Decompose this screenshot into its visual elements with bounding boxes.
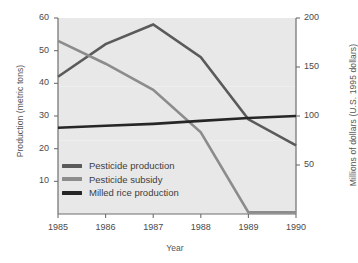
y-axis-right-tick-label: 50 [304,159,330,169]
chart-legend: Pesticide productionPesticide subsidyMil… [62,160,179,198]
y-axis-left-tick-label: 20 [25,143,49,153]
y-axis-right-tick-label: 100 [304,110,330,120]
legend-label: Pesticide subsidy [89,174,162,185]
y-axis-right-title: Millions of dollars (U.S. 1995 dollars) [348,20,358,210]
x-axis-tick-label: 1986 [86,222,126,232]
y-axis-left-title: Production (metric tons) [15,36,25,186]
x-axis-title: Year [0,243,350,253]
x-axis-tick-label: 1989 [228,222,268,232]
legend-label: Milled rice production [89,187,179,198]
legend-item: Pesticide production [62,160,179,171]
legend-swatch-icon [62,164,82,168]
y-axis-left-tick-label: 10 [25,175,49,185]
y-axis-left-tick-label: 50 [25,45,49,55]
legend-label: Pesticide production [89,160,175,171]
legend-swatch-icon [62,177,82,181]
x-axis-tick-label: 1985 [38,222,78,232]
x-axis-tick-label: 1988 [181,222,221,232]
y-axis-left-tick-label: 30 [25,110,49,120]
y-axis-right-tick-label: 150 [304,61,330,71]
y-axis-right-tick-label: 200 [304,12,330,22]
scan-band [58,86,296,87]
x-axis-tick-label: 1990 [276,222,316,232]
x-axis-tick-label: 1987 [133,222,173,232]
legend-swatch-icon [62,191,82,195]
y-axis-left-tick-label: 40 [25,77,49,87]
scan-band [58,140,296,141]
legend-item: Milled rice production [62,187,179,198]
legend-item: Pesticide subsidy [62,174,179,185]
x-axis-ticks [58,214,296,218]
y-axis-left-tick-label: 60 [25,12,49,22]
